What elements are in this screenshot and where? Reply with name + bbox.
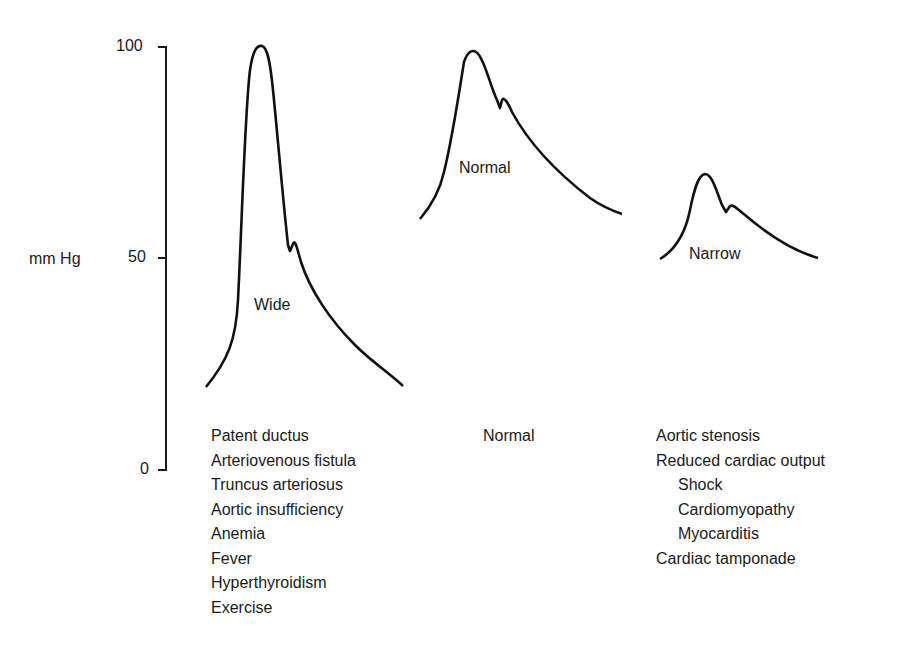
normal-pulse-curve xyxy=(420,51,622,219)
list-item: Aortic stenosis xyxy=(656,424,825,449)
y-tick-0: 0 xyxy=(140,460,149,478)
y-tick-50: 50 xyxy=(128,248,146,266)
list-item: Truncus arteriosus xyxy=(211,473,356,498)
y-tick-100: 100 xyxy=(116,37,143,55)
list-item: Aortic insufficiency xyxy=(211,498,356,523)
wide-pulse-curve xyxy=(206,46,403,387)
y-axis xyxy=(158,47,166,470)
list-item: Exercise xyxy=(211,596,356,621)
normal-conditions-list: Normal xyxy=(483,424,535,449)
list-item: Myocarditis xyxy=(656,522,825,547)
list-item: Shock xyxy=(656,473,825,498)
list-item: Anemia xyxy=(211,522,356,547)
list-item: Normal xyxy=(483,424,535,449)
y-axis-label: mm Hg xyxy=(29,250,81,268)
narrow-conditions-list: Aortic stenosis Reduced cardiac output S… xyxy=(656,424,825,571)
wide-conditions-list: Patent ductus Arteriovenous fistula Trun… xyxy=(211,424,356,620)
list-item: Fever xyxy=(211,547,356,572)
list-item: Cardiac tamponade xyxy=(656,547,825,572)
list-item: Patent ductus xyxy=(211,424,356,449)
list-item: Hyperthyroidism xyxy=(211,571,356,596)
list-item: Arteriovenous fistula xyxy=(211,449,356,474)
narrow-curve-label: Narrow xyxy=(689,245,741,263)
list-item: Cardiomyopathy xyxy=(656,498,825,523)
list-item: Reduced cardiac output xyxy=(656,449,825,474)
wide-curve-label: Wide xyxy=(254,296,290,314)
normal-curve-label: Normal xyxy=(459,159,511,177)
